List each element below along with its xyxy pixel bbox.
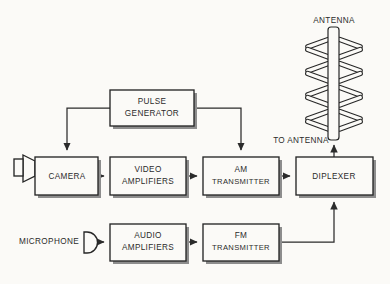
block-label-line2: AMPLIFIERS [122, 177, 174, 186]
antenna-mast [328, 27, 339, 140]
block-audio-amplifiers[interactable]: AUDIO AMPLIFIERS [110, 224, 189, 264]
block-label-line1: PULSE [138, 97, 167, 106]
block-video-amplifiers[interactable]: VIDEO AMPLIFIERS [110, 157, 189, 198]
block-label-line2: TRANSMITTER [212, 177, 270, 186]
camera-lens-icon [14, 155, 35, 182]
wire-pulse-to-camera [67, 108, 110, 150]
block-pulse-generator[interactable]: PULSE GENERATOR [110, 90, 197, 129]
block-label-line1: AM [235, 165, 248, 174]
block-diplexer[interactable]: DIPLEXER [296, 157, 376, 198]
block-label-line1: AUDIO [134, 231, 162, 240]
block-label-line1: DIPLEXER [312, 172, 355, 181]
block-label-line1: FM [235, 231, 248, 240]
wire-fm-to-diplexer [279, 202, 334, 242]
block-label-line2: AMPLIFIERS [122, 243, 174, 252]
block-label-line1: CAMERA [48, 172, 85, 181]
block-fm-transmitter[interactable]: FM TRANSMITTER [203, 224, 282, 264]
to-antenna-label: TO ANTENNA [273, 136, 329, 145]
transmitter-block-diagram: ANTENNA [0, 0, 390, 284]
microphone-label: MICROPHONE [19, 237, 79, 246]
signal-wires: TO ANTENNA [67, 108, 334, 242]
block-label-line2: GENERATOR [125, 109, 179, 118]
antenna-label: ANTENNA [313, 16, 355, 25]
block-camera[interactable]: CAMERA [35, 157, 101, 198]
block-label-line1: VIDEO [134, 165, 161, 174]
block-label-line2: TRANSMITTER [212, 243, 270, 252]
microphone-icon [84, 232, 98, 253]
wire-pulse-to-am [194, 108, 241, 150]
antenna-group: ANTENNA [305, 16, 363, 140]
block-am-transmitter[interactable]: AM TRANSMITTER [203, 157, 282, 198]
